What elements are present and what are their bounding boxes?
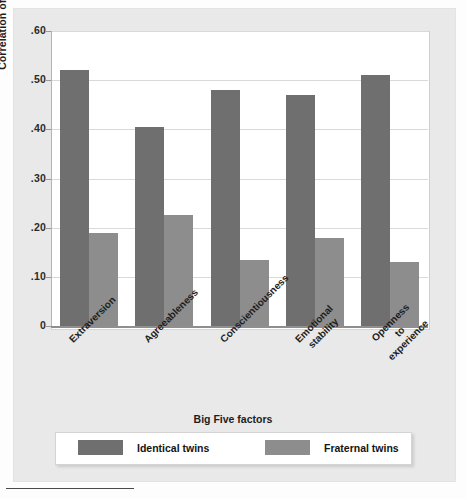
bar-group xyxy=(361,31,419,326)
bar-identical xyxy=(361,75,390,326)
legend-swatch xyxy=(78,440,123,455)
bar-group xyxy=(60,31,118,326)
legend-label: Identical twins xyxy=(137,442,209,454)
y-tick-label: .50 xyxy=(12,73,46,85)
bar-identical xyxy=(60,70,89,326)
y-axis-line xyxy=(51,31,52,328)
legend-label: Fraternal twins xyxy=(324,442,399,454)
bar-group xyxy=(211,31,269,326)
y-tick-label: .60 xyxy=(12,24,46,36)
bar-identical xyxy=(286,95,315,326)
legend-item: Fraternal twins xyxy=(265,440,399,455)
y-tick-label: .30 xyxy=(12,172,46,184)
y-tick-label: 0 xyxy=(12,319,46,331)
figure-page: Correlation of scores .60.50.40.30.20.10… xyxy=(0,0,466,499)
x-axis-title: Big Five factors xyxy=(0,413,466,425)
bar-group xyxy=(135,31,193,326)
bar-group xyxy=(286,31,344,326)
y-tick-label: .40 xyxy=(12,122,46,134)
chart-legend: Identical twinsFraternal twins xyxy=(55,432,412,465)
legend-item: Identical twins xyxy=(78,440,209,455)
y-tick-label: .10 xyxy=(12,270,46,282)
bar-identical xyxy=(211,90,240,326)
legend-swatch xyxy=(265,440,310,455)
bar-identical xyxy=(135,127,164,326)
y-axis-title: Correlation of scores xyxy=(0,0,8,96)
scan-artifact-line xyxy=(6,488,134,489)
y-tick-label: .20 xyxy=(12,221,46,233)
plot-area xyxy=(51,31,428,328)
